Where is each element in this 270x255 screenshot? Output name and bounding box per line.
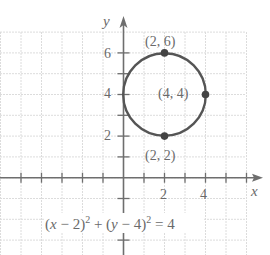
axis-ticks <box>21 53 247 240</box>
x-tick-label-4: 4 <box>200 187 207 202</box>
point-label-top: (2, 6) <box>145 34 176 50</box>
y-tick-label-6: 6 <box>104 46 111 61</box>
data-point <box>161 49 169 57</box>
circle-graph: y x 2 4 6 4 2 (2, 6) (4, 4) (2, 2) (x − … <box>0 0 270 255</box>
point-label-bottom: (2, 2) <box>145 148 176 164</box>
y-tick-label-2: 2 <box>104 128 111 143</box>
x-tick-label-2: 2 <box>160 187 167 202</box>
y-axis-label: y <box>101 13 110 29</box>
data-point <box>202 91 210 99</box>
circle-equation: (x − 2)2 + (y − 4)2 = 4 <box>45 214 175 233</box>
point-label-right: (4, 4) <box>158 86 189 102</box>
y-tick-label-4: 4 <box>104 86 111 101</box>
data-point <box>161 132 169 140</box>
x-axis-label: x <box>250 183 258 199</box>
